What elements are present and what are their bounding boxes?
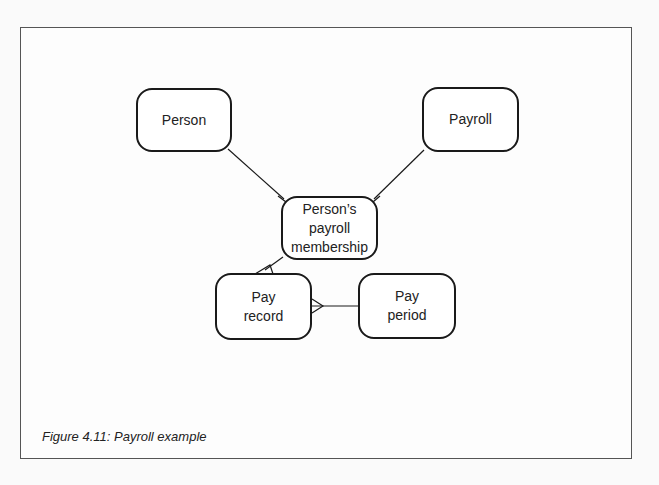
entity-label: Person: [162, 111, 206, 130]
entity-label: Pay period: [387, 287, 427, 325]
entity-pay-record: Pay record: [215, 273, 312, 340]
relationship-line-person-membership: [228, 149, 284, 199]
entity-persons-payroll-membership: Person’s payroll membership: [281, 196, 378, 260]
entity-pay-period: Pay period: [358, 273, 456, 339]
entity-label: Pay record: [244, 288, 284, 326]
relationship-line-membership-payrecord: [265, 257, 283, 270]
figure-caption: Figure 4.11: Payroll example: [42, 429, 207, 444]
entity-payroll: Payroll: [422, 87, 519, 152]
entity-label: Person’s payroll membership: [285, 200, 374, 257]
entity-person: Person: [136, 88, 232, 152]
relationship-line-payroll-membership: [374, 150, 424, 199]
entity-label: Payroll: [449, 110, 492, 129]
